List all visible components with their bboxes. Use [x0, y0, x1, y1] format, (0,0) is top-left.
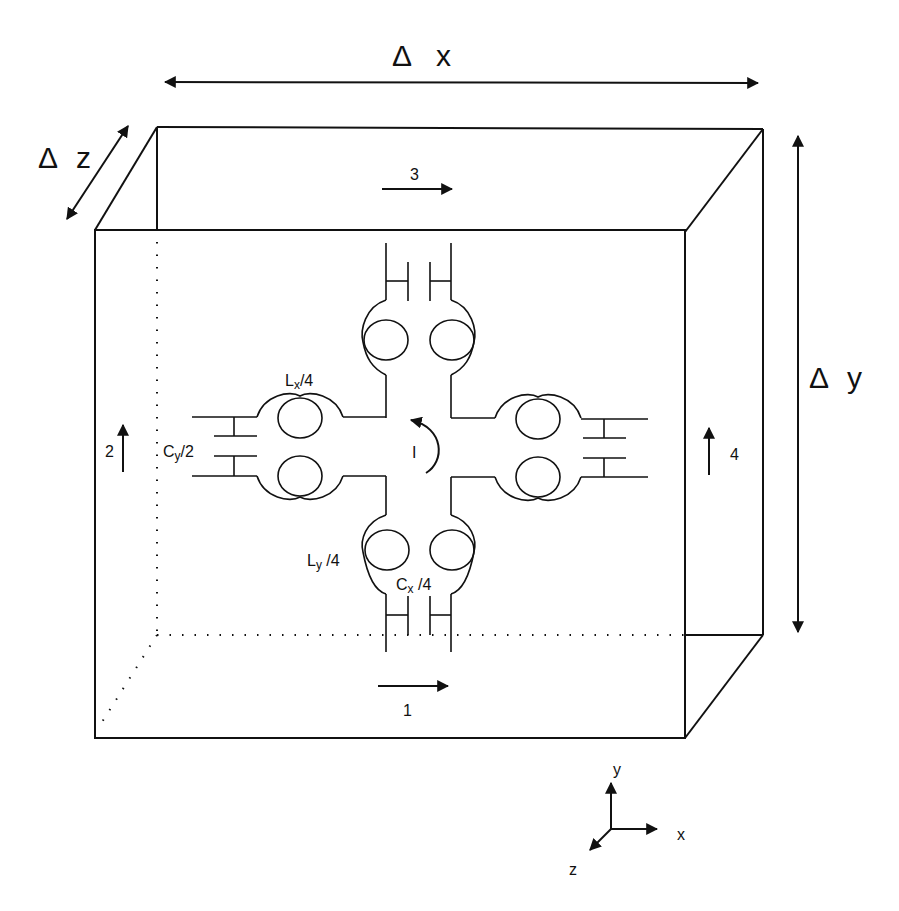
svg-text:Ly /4: Ly /4	[307, 552, 340, 572]
dimension-dy: Δ y	[798, 136, 862, 632]
current-arrow-1: 1	[378, 686, 448, 719]
cell-box	[95, 127, 763, 738]
svg-text:4: 4	[730, 446, 739, 463]
coordinate-axes: y x z	[569, 761, 685, 878]
svg-text:Cx /4: Cx /4	[396, 576, 431, 596]
bottom-branch	[362, 476, 475, 652]
delta-z-symbol: Δ	[38, 141, 58, 174]
circulating-current: I	[411, 420, 439, 473]
delta-x-symbol: Δ	[392, 39, 412, 72]
top-branch	[362, 243, 475, 418]
label-cx: Cx /4	[396, 576, 431, 596]
axis-z-label: z	[569, 861, 577, 878]
axis-y-label: y	[613, 761, 621, 778]
axis-x-label: x	[677, 826, 685, 843]
delta-z-axis: z	[76, 141, 91, 174]
current-label: I	[412, 444, 416, 461]
delta-y-axis: y	[847, 361, 862, 394]
label-ly: Ly /4	[307, 552, 340, 572]
current-arrow-4: 4	[709, 428, 739, 475]
current-arrow-3: 3	[382, 166, 452, 189]
dimension-dz: Δ z	[38, 126, 128, 219]
label-lx: Lx/4	[285, 372, 313, 392]
svg-text:Lx/4: Lx/4	[285, 372, 313, 392]
lumped-circuit-cell-diagram: Δ x Δ z Δ y 3 1 2 4	[0, 0, 899, 911]
svg-text:Cy/2: Cy/2	[163, 443, 194, 463]
delta-y-symbol: Δ	[809, 361, 829, 394]
left-branch	[192, 394, 386, 500]
svg-text:3: 3	[410, 166, 419, 183]
right-branch	[451, 395, 648, 501]
delta-x-axis: x	[436, 39, 451, 72]
current-arrow-2: 2	[105, 425, 123, 472]
dimension-dx: Δ x	[165, 39, 758, 83]
svg-text:1: 1	[403, 702, 412, 719]
svg-text:2: 2	[105, 443, 114, 460]
label-cy: Cy/2	[163, 443, 194, 463]
